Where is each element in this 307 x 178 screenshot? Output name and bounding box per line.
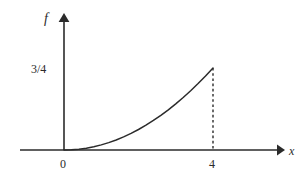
origin-tick-label: 0	[60, 158, 66, 170]
plot-canvas	[0, 0, 307, 178]
x-axis-arrowhead	[277, 145, 285, 156]
y-tick-label-three-quarters: 3/4	[31, 63, 46, 75]
density-curve	[64, 68, 213, 150]
y-axis-label: f	[44, 12, 48, 26]
figure-container: f x 3/4 0 4	[0, 0, 307, 178]
x-tick-label-four: 4	[209, 158, 215, 170]
x-axis-label: x	[289, 145, 294, 157]
y-axis-arrowhead	[59, 13, 70, 22]
